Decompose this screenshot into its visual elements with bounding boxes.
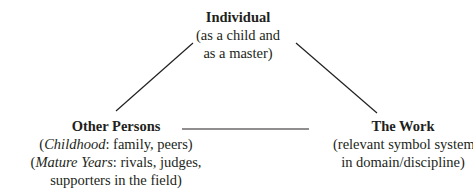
node-desc-line: in domain/discipline) [333, 153, 473, 171]
desc-text: : family, peers) [105, 136, 192, 152]
italic-term: Childhood [44, 136, 105, 152]
italic-term: Mature Years [35, 154, 112, 170]
node-desc-line: supporters in the field) [0, 171, 232, 189]
node-desc-line: as a master) [168, 44, 308, 62]
node-desc-line: (Mature Years: rivals, judges, [0, 153, 232, 171]
node-the-work: The Work (relevant symbol systems in dom… [333, 117, 473, 171]
node-title: Individual [168, 8, 308, 26]
node-desc-line: (relevant symbol systems [333, 135, 473, 153]
node-individual: Individual (as a child and as a master) [168, 8, 308, 62]
node-desc-line: (as a child and [168, 26, 308, 44]
edge-individual-the-work [296, 43, 377, 113]
node-title: The Work [333, 117, 473, 135]
node-title: Other Persons [0, 117, 232, 135]
node-other-persons: Other Persons (Childhood: family, peers)… [0, 117, 232, 189]
node-desc-line: (Childhood: family, peers) [0, 135, 232, 153]
desc-text: : rivals, judges, [113, 154, 202, 170]
